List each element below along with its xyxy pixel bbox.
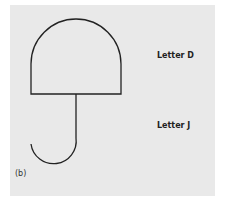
letter-d-shape xyxy=(31,19,121,94)
umbrella-diagram xyxy=(0,0,225,208)
figure-caption: (b) xyxy=(15,169,26,178)
letter-d-label: Letter D xyxy=(157,51,194,60)
letter-j-label: Letter J xyxy=(157,121,190,130)
letter-j-shape xyxy=(31,94,76,164)
